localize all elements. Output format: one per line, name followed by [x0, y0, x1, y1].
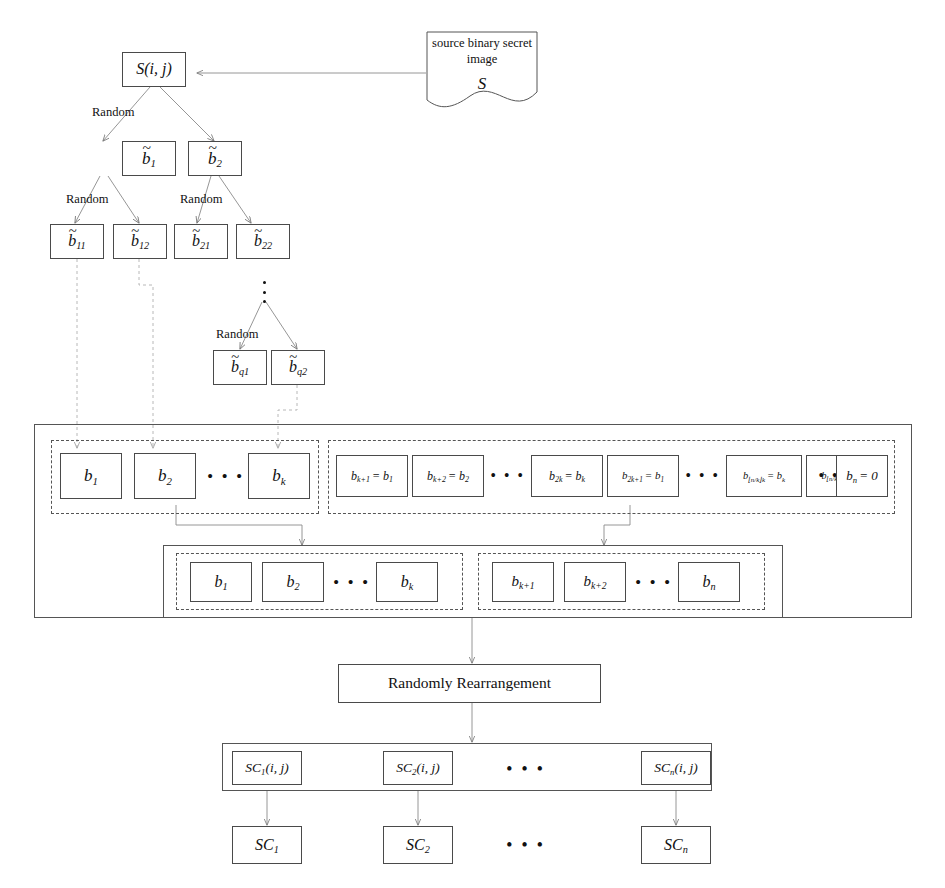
tilde-accent: ~ — [143, 140, 151, 156]
share-sc2-base: SC — [406, 836, 425, 853]
block-bk1-eq-row1[interactable]: bk+1= b1 — [336, 455, 408, 497]
share-sc1-base: SC — [255, 836, 274, 853]
eq-rhs-sub: k — [782, 476, 785, 483]
block-bk-row2-base: b — [401, 573, 409, 590]
block-bk1-row2-sub: k+1 — [519, 580, 535, 591]
block-bn-row2[interactable]: bn — [678, 562, 740, 602]
row1-right-ellipsis-2: • • • — [683, 467, 723, 485]
block-bk2-row2[interactable]: bk+2 — [564, 562, 626, 602]
source-doc-line2: image — [467, 52, 498, 66]
block-b2k1-eq-row1[interactable]: b2k+1= b1 — [607, 455, 679, 497]
node-b-tilde-2[interactable]: ~b2 — [188, 141, 242, 176]
eq-rhs: = b — [448, 469, 465, 483]
shares-ellipsis: • • • — [498, 836, 554, 854]
source-doc-line1: source binary secret — [432, 36, 532, 50]
randomly-rearrangement-box[interactable]: Randomly Rearrangement — [338, 664, 601, 703]
eq-rhs-sub: 1 — [389, 475, 393, 484]
block-b1-row2[interactable]: b1 — [190, 562, 252, 602]
random-label-3: Random — [180, 192, 222, 207]
share-scn-ij-sub: n — [670, 767, 674, 777]
eq-rhs: = b — [564, 469, 581, 483]
block-b1-row1-sub: 1 — [93, 475, 98, 487]
node-b-tilde-2-sub: 2 — [217, 157, 222, 169]
random-label-1: Random — [92, 105, 134, 120]
eq-lhs-sub: 2k+1 — [627, 476, 642, 484]
share-sc2-ij-base: SC — [396, 760, 412, 775]
node-s-ij-label: S(i, j) — [136, 61, 172, 78]
share-sc2-ij-suffix: (i, j) — [416, 760, 439, 775]
eq-lhs-sub: n — [853, 475, 857, 485]
node-b-tilde-q1[interactable]: ~bq1 — [213, 350, 267, 385]
share-sc2-ij-sub: 2 — [412, 767, 416, 777]
row2-right-ellipsis: • • • — [632, 573, 676, 591]
node-b-tilde-12[interactable]: ~b12 — [113, 224, 167, 259]
share-sc2-ij[interactable]: SC2(i, j) — [383, 751, 453, 785]
block-bk2-eq-row1[interactable]: bk+2= b2 — [412, 455, 484, 497]
node-b-tilde-q2[interactable]: ~bq2 — [271, 350, 325, 385]
node-b-tilde-21[interactable]: ~b21 — [174, 224, 228, 259]
block-b2-row2-sub: 2 — [294, 581, 299, 592]
block-bk1-row2-base: b — [511, 573, 519, 589]
share-scn[interactable]: SCn — [641, 826, 711, 864]
block-b1-row1[interactable]: b1 — [60, 453, 122, 499]
node-b-tilde-22[interactable]: ~b22 — [236, 224, 290, 259]
eq-rhs: = 0 — [859, 468, 878, 483]
block-bk-row2[interactable]: bk — [376, 562, 438, 602]
eq-rhs-sub: 2 — [465, 475, 469, 484]
block-b1-row2-sub: 1 — [222, 581, 227, 592]
node-b-tilde-1-sub: 1 — [151, 157, 156, 169]
block-bfloor-eq-row1[interactable]: b⌊n/k⌋k= bk — [726, 455, 802, 497]
share-sc1-sub: 1 — [274, 844, 279, 855]
block-b2-row1-base: b — [158, 466, 167, 485]
block-b2-row1-sub: 2 — [167, 475, 172, 487]
diagram-canvas: source binary secret image S S(i, j) Ran… — [0, 0, 945, 888]
share-sc1-ij-suffix: (i, j) — [265, 760, 288, 775]
tilde-accent: ~ — [131, 224, 139, 239]
row1-right-ellipsis-1: • • • — [488, 467, 528, 485]
randomly-rearrangement-label: Randomly Rearrangement — [388, 675, 551, 691]
block-bk-row1-sub: k — [281, 475, 286, 487]
tilde-accent: ~ — [289, 350, 297, 365]
tilde-accent: ~ — [192, 224, 200, 239]
share-scn-ij-suffix: (i, j) — [674, 760, 697, 775]
node-s-ij[interactable]: S(i, j) — [122, 52, 186, 87]
eq-rhs: = b — [372, 469, 389, 483]
eq-lhs-base: b — [846, 468, 853, 483]
block-bk1-row2[interactable]: bk+1 — [492, 562, 554, 602]
block-bk-row2-sub: k — [409, 581, 414, 592]
node-b-tilde-q1-sub: q1 — [239, 366, 249, 377]
eq-rhs: = b — [767, 470, 782, 481]
eq-lhs-sub: k+1 — [357, 475, 370, 484]
random-label-2: Random — [66, 192, 108, 207]
block-b2-row1[interactable]: b2 — [134, 453, 196, 499]
eq-lhs-sub: ⌊n/k⌋k — [748, 476, 765, 483]
node-b-tilde-22-sub: 22 — [262, 240, 272, 251]
eq-rhs-sub: k — [582, 475, 586, 484]
share-scn-ij[interactable]: SCn(i, j) — [641, 751, 711, 785]
eq-lhs-sub: 2k — [555, 475, 562, 484]
share-sc2-sub: 2 — [425, 844, 430, 855]
random-label-4: Random — [216, 327, 258, 342]
block-bn-eq-row1[interactable]: bn= 0 — [836, 455, 888, 497]
block-bk-row1-base: b — [272, 466, 281, 485]
block-bk-row1[interactable]: bk — [248, 453, 310, 499]
block-bn-row2-sub: n — [710, 581, 715, 592]
node-b-tilde-11[interactable]: ~b11 — [50, 224, 104, 259]
source-doc-symbol: S — [430, 73, 534, 94]
tilde-accent: ~ — [254, 224, 262, 239]
node-b-tilde-1[interactable]: ~b1 — [122, 141, 176, 176]
block-b2k-eq-row1[interactable]: b2k= bk — [531, 455, 603, 497]
tilde-accent: ~ — [231, 350, 239, 365]
eq-rhs-sub: 1 — [660, 476, 664, 484]
row2-left-ellipsis: • • • — [330, 573, 374, 591]
node-b-tilde-21-sub: 21 — [200, 240, 210, 251]
node-b-tilde-11-sub: 11 — [76, 240, 85, 251]
eq-lhs-sub: k+2 — [433, 475, 446, 484]
block-b2-row2[interactable]: b2 — [262, 562, 324, 602]
vertical-ellipsis — [262, 281, 266, 303]
share-sc1[interactable]: SC1 — [232, 826, 302, 864]
eq-rhs: = b — [645, 469, 661, 481]
share-sc2[interactable]: SC2 — [383, 826, 453, 864]
share-sc1-ij[interactable]: SC1(i, j) — [232, 751, 302, 785]
shares-ij-ellipsis: • • • — [498, 760, 554, 778]
